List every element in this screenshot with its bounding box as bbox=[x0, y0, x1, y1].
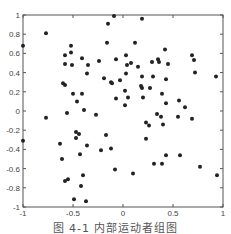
data-point bbox=[85, 144, 89, 148]
data-point bbox=[60, 157, 64, 161]
data-point bbox=[58, 142, 62, 146]
x-tick-label: -0.5 bbox=[66, 209, 80, 218]
data-point bbox=[190, 117, 194, 121]
data-point bbox=[86, 63, 90, 67]
y-tick-label: 0.4 bbox=[9, 69, 21, 78]
data-point bbox=[140, 74, 144, 78]
data-point bbox=[69, 50, 73, 54]
data-point bbox=[105, 41, 109, 45]
data-point bbox=[148, 86, 152, 90]
data-point bbox=[151, 74, 155, 78]
y-tick-label: 0.6 bbox=[9, 49, 21, 58]
data-point bbox=[113, 168, 117, 172]
data-point bbox=[63, 179, 67, 183]
data-point bbox=[124, 72, 128, 76]
data-point bbox=[214, 74, 218, 78]
figure-caption: 图 4-1 内部运动者组图 bbox=[0, 219, 231, 234]
y-tick-label: -0.8 bbox=[6, 184, 20, 193]
data-point bbox=[72, 197, 76, 201]
data-point bbox=[82, 108, 86, 112]
data-point bbox=[79, 184, 83, 188]
data-point bbox=[114, 97, 118, 101]
data-point bbox=[70, 63, 74, 67]
data-point bbox=[157, 60, 161, 64]
data-point bbox=[124, 53, 128, 57]
data-point bbox=[63, 62, 67, 66]
y-tick-label: -0.4 bbox=[6, 145, 20, 154]
data-points bbox=[21, 14, 219, 203]
y-axis-ticks: 10.80.60.40.20-0.2-0.4-0.6-0.8-1 bbox=[6, 11, 223, 212]
x-tick-label: 0 bbox=[121, 209, 126, 218]
data-point bbox=[192, 58, 196, 62]
data-point bbox=[84, 199, 88, 203]
data-point bbox=[97, 59, 101, 63]
x-tick-label: 1 bbox=[221, 209, 226, 218]
data-point bbox=[44, 31, 48, 35]
axes-frame bbox=[23, 15, 223, 207]
data-point bbox=[81, 173, 85, 177]
data-point bbox=[104, 133, 108, 137]
data-point bbox=[163, 48, 167, 52]
data-point bbox=[44, 116, 48, 120]
data-point bbox=[63, 83, 67, 87]
data-point bbox=[178, 153, 182, 157]
data-point bbox=[150, 60, 154, 64]
data-point bbox=[80, 92, 84, 96]
data-point bbox=[166, 62, 170, 66]
data-point bbox=[152, 162, 156, 166]
data-point bbox=[85, 72, 89, 76]
data-point bbox=[123, 103, 127, 107]
x-axis-ticks: -1-0.500.51 bbox=[19, 15, 225, 218]
data-point bbox=[140, 86, 144, 90]
data-point bbox=[77, 132, 81, 136]
data-point bbox=[160, 92, 164, 96]
data-point bbox=[215, 173, 219, 177]
data-point bbox=[112, 14, 116, 18]
y-tick-label: 0 bbox=[16, 107, 21, 116]
data-point bbox=[164, 77, 168, 81]
data-point bbox=[126, 96, 130, 100]
data-point bbox=[164, 153, 168, 157]
data-point bbox=[140, 17, 144, 21]
data-point bbox=[21, 139, 25, 143]
data-point bbox=[110, 81, 114, 85]
data-point bbox=[177, 98, 181, 102]
data-point bbox=[69, 44, 73, 48]
data-point bbox=[106, 22, 110, 26]
y-tick-label: -0.6 bbox=[6, 165, 20, 174]
scatter-chart: 10.80.60.40.20-0.2-0.4-0.6-0.8-1 -1-0.50… bbox=[0, 0, 231, 234]
data-point bbox=[80, 56, 84, 60]
y-tick-label: 0.2 bbox=[9, 88, 21, 97]
data-point bbox=[141, 96, 145, 100]
data-point bbox=[65, 111, 69, 115]
data-point bbox=[155, 112, 159, 116]
x-tick-label: -1 bbox=[19, 209, 27, 218]
data-point bbox=[190, 53, 194, 57]
data-point bbox=[133, 41, 137, 45]
data-point bbox=[99, 148, 103, 152]
data-point bbox=[21, 44, 25, 48]
data-point bbox=[144, 121, 148, 125]
x-tick-label: 0.5 bbox=[167, 209, 179, 218]
data-point bbox=[109, 146, 113, 150]
data-point bbox=[129, 61, 133, 65]
data-point bbox=[160, 162, 164, 166]
plot-area-border bbox=[23, 15, 223, 207]
data-point bbox=[147, 123, 151, 127]
data-point bbox=[125, 63, 129, 67]
data-point bbox=[164, 101, 168, 105]
data-point bbox=[74, 136, 78, 140]
data-point bbox=[159, 115, 163, 119]
data-point bbox=[136, 65, 140, 69]
data-point bbox=[144, 137, 148, 141]
data-point bbox=[63, 53, 67, 57]
data-point bbox=[123, 89, 127, 93]
data-point bbox=[193, 71, 197, 75]
data-point bbox=[114, 57, 118, 61]
data-point bbox=[183, 105, 187, 109]
y-tick-label: 1 bbox=[16, 11, 21, 20]
data-point bbox=[102, 76, 106, 80]
y-tick-label: -0.2 bbox=[6, 126, 20, 135]
y-tick-label: 0.8 bbox=[9, 30, 21, 39]
data-point bbox=[94, 113, 98, 117]
